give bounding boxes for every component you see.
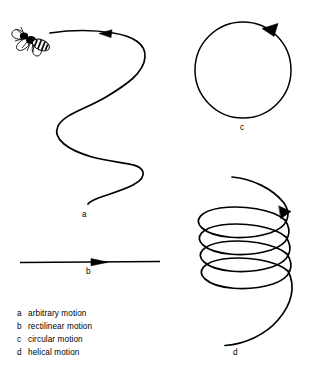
rectilinear-motion-line — [20, 262, 160, 263]
legend-key-d: d — [17, 346, 28, 359]
legend-key-b: b — [17, 320, 28, 333]
legend-key-c: c — [17, 333, 28, 346]
legend: a arbitrary motion b rectilinear motion … — [17, 307, 197, 359]
path-label-c: c — [240, 124, 244, 132]
legend-text-a: arbitrary motion — [28, 307, 86, 320]
legend-item-c: c circular motion — [17, 333, 197, 346]
path-label-b: b — [86, 268, 91, 276]
legend-text-d: helical motion — [28, 346, 79, 359]
legend-key-a: a — [17, 307, 28, 320]
legend-item-b: b rectilinear motion — [17, 320, 197, 333]
path-label-a: a — [82, 211, 87, 219]
path-label-d: d — [233, 349, 238, 357]
legend-text-b: rectilinear motion — [28, 320, 92, 333]
legend-item-d: d helical motion — [17, 346, 197, 359]
legend-text-c: circular motion — [28, 333, 83, 346]
legend-item-a: a arbitrary motion — [17, 307, 197, 320]
